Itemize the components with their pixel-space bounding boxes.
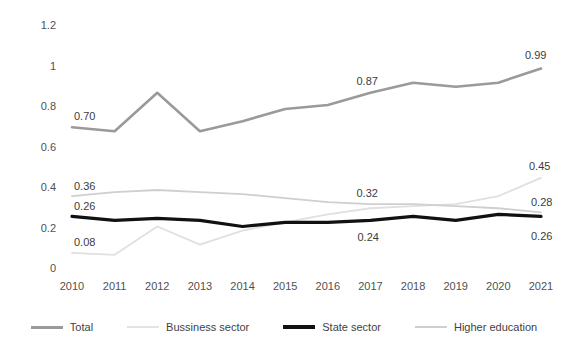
- chart-legend: TotalBussiness sectorState sectorHigher …: [0, 316, 568, 338]
- series-layer: [72, 69, 541, 255]
- data-point-label: 0.32: [356, 188, 377, 199]
- series-line: [72, 214, 541, 226]
- series-line: [72, 69, 541, 132]
- x-tick-label: 2018: [393, 281, 433, 292]
- legend-label: Bussiness sector: [166, 322, 249, 333]
- legend-label: Higher education: [454, 322, 537, 333]
- legend-swatch-icon: [283, 325, 315, 329]
- data-point-label: 0.24: [357, 232, 378, 243]
- y-tick-label: 1: [24, 61, 56, 72]
- legend-item[interactable]: Bussiness sector: [127, 322, 249, 333]
- y-tick-label: 0.6: [24, 142, 56, 153]
- data-point-label: 0.36: [74, 181, 95, 192]
- x-tick-label: 2011: [95, 281, 135, 292]
- plot-area: [0, 0, 568, 358]
- legend-item[interactable]: State sector: [283, 322, 381, 333]
- x-tick-label: 2021: [521, 281, 561, 292]
- y-tick-label: 0.8: [24, 101, 56, 112]
- x-tick-label: 2020: [478, 281, 518, 292]
- legend-label: State sector: [322, 322, 381, 333]
- x-tick-label: 2014: [223, 281, 263, 292]
- data-point-label: 0.70: [74, 111, 95, 122]
- data-point-label: 0.26: [74, 201, 95, 212]
- legend-item[interactable]: Total: [31, 322, 93, 333]
- data-point-label: 0.99: [525, 50, 546, 61]
- x-tick-label: 2015: [265, 281, 305, 292]
- y-tick-label: 0.2: [24, 223, 56, 234]
- x-tick-label: 2013: [180, 281, 220, 292]
- data-point-label: 0.28: [531, 197, 552, 208]
- data-point-label: 0.45: [529, 161, 550, 172]
- legend-swatch-icon: [415, 326, 447, 328]
- x-tick-label: 2012: [137, 281, 177, 292]
- data-point-label: 0.87: [356, 76, 377, 87]
- y-tick-label: 1.2: [24, 20, 56, 31]
- x-tick-label: 2017: [350, 281, 390, 292]
- legend-swatch-icon: [127, 326, 159, 328]
- legend-item[interactable]: Higher education: [415, 322, 537, 333]
- line-chart: 00.20.40.60.811.2 2010201120122013201420…: [0, 0, 568, 358]
- x-tick-label: 2010: [52, 281, 92, 292]
- series-line: [72, 178, 541, 255]
- y-tick-label: 0.4: [24, 182, 56, 193]
- x-tick-label: 2016: [308, 281, 348, 292]
- x-tick-label: 2019: [436, 281, 476, 292]
- legend-swatch-icon: [31, 326, 63, 329]
- legend-label: Total: [70, 322, 93, 333]
- data-point-label: 0.08: [74, 237, 95, 248]
- data-point-label: 0.26: [531, 231, 552, 242]
- y-tick-label: 0: [24, 263, 56, 274]
- chart-canvas: [0, 0, 568, 358]
